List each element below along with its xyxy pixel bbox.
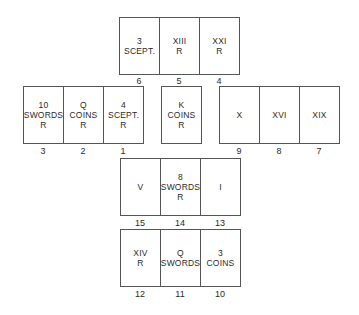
card-label: 10 SWORDS R [24, 100, 63, 130]
card-position-14: 8 SWORDS R [160, 158, 201, 216]
card-label: 4 SCEPT. R [108, 100, 139, 130]
card-label: XXI R [212, 36, 226, 56]
position-number: 10 [200, 289, 240, 299]
significator-card: K COINS R [161, 86, 202, 144]
card-position-12: XIV R [120, 229, 161, 287]
card-position-6: 3 SCEPT. [119, 17, 160, 75]
card-position-15: V [120, 158, 161, 216]
lower-row-positions: 15 14 13 [120, 218, 240, 228]
position-number: 14 [160, 218, 200, 228]
position-number: 8 [259, 146, 299, 156]
position-number: 7 [299, 146, 339, 156]
card-position-8: XVI [259, 86, 300, 144]
right-row-positions: 9 8 7 [219, 146, 339, 156]
top-row-positions: 6 5 4 [119, 76, 239, 86]
lower-row: V 8 SWORDS R I [120, 158, 241, 216]
card-position-5: XIII R [159, 17, 200, 75]
position-number: 9 [219, 146, 259, 156]
card-label: 8 SWORDS R [161, 172, 200, 202]
card-label: K COINS R [168, 100, 196, 130]
card-label: Q SWORDS [161, 248, 200, 268]
center-column: K COINS R [161, 86, 202, 144]
position-number: 2 [63, 146, 103, 156]
card-label: X [237, 110, 243, 120]
card-label: XIX [312, 110, 326, 120]
bottom-row: XIV R Q SWORDS 3 COINS [120, 229, 241, 287]
card-label: I [219, 182, 222, 192]
position-number: 13 [200, 218, 240, 228]
card-label: XVI [272, 110, 286, 120]
position-number: 4 [199, 76, 239, 86]
position-number: 11 [160, 289, 200, 299]
card-position-11: Q SWORDS [160, 229, 201, 287]
card-position-2: Q COINS R [63, 86, 104, 144]
left-row-positions: 3 2 1 [23, 146, 143, 156]
card-label: XIII R [173, 36, 187, 56]
card-label: Q COINS R [70, 100, 98, 130]
card-position-3: 10 SWORDS R [23, 86, 64, 144]
card-position-4: XXI R [199, 17, 240, 75]
card-position-7: XIX [299, 86, 340, 144]
card-position-13: I [200, 158, 241, 216]
card-label: XIV R [133, 248, 147, 268]
top-row: 3 SCEPT. XIII R XXI R [119, 17, 240, 75]
right-row: X XVI XIX [219, 86, 340, 144]
card-label: 3 COINS [207, 248, 235, 268]
card-position-1: 4 SCEPT. R [103, 86, 144, 144]
card-label: 3 SCEPT. [124, 36, 155, 56]
position-number: 15 [120, 218, 160, 228]
position-number: 5 [159, 76, 199, 86]
bottom-row-positions: 12 11 10 [120, 289, 240, 299]
position-number: 1 [103, 146, 143, 156]
card-position-10: 3 COINS [200, 229, 241, 287]
left-row: 10 SWORDS R Q COINS R 4 SCEPT. R [23, 86, 144, 144]
card-position-9: X [219, 86, 260, 144]
position-number: 12 [120, 289, 160, 299]
card-label: V [138, 182, 144, 192]
position-number: 6 [119, 76, 159, 86]
position-number: 3 [23, 146, 63, 156]
